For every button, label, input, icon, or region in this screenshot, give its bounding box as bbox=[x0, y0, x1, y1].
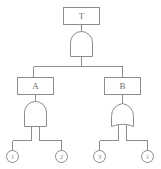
top-event-label: T bbox=[79, 11, 85, 21]
basic-event-label: 2 bbox=[60, 153, 64, 161]
basic-event-node-1[interactable]: 1 bbox=[7, 151, 19, 163]
basic-event-node-2[interactable]: 2 bbox=[56, 151, 68, 163]
fault-tree-diagram: T A B bbox=[0, 0, 161, 169]
gate-top-and-gate[interactable] bbox=[71, 32, 93, 57]
basic-event-label: 1 bbox=[11, 153, 15, 161]
gate-left-and-gate[interactable] bbox=[25, 102, 47, 127]
basic-event-node-4[interactable]: 1 bbox=[142, 151, 154, 163]
or-gate-icon bbox=[112, 104, 134, 127]
intermediate-event-node-A[interactable]: A bbox=[18, 78, 54, 95]
basic-event-label: 1 bbox=[146, 153, 150, 161]
intermediate-event-label-B: B bbox=[119, 81, 125, 91]
gate-right-or-gate[interactable] bbox=[112, 104, 134, 127]
top-event-node-T[interactable]: T bbox=[64, 8, 100, 25]
fault-tree-canvas: T A B bbox=[0, 0, 161, 169]
intermediate-event-label-A: A bbox=[32, 81, 39, 91]
intermediate-event-node-B[interactable]: B bbox=[105, 78, 141, 95]
basic-event-node-3[interactable]: 3 bbox=[94, 151, 106, 163]
basic-event-label: 3 bbox=[98, 153, 102, 161]
and-gate-icon bbox=[25, 102, 47, 127]
and-gate-icon bbox=[71, 32, 93, 57]
